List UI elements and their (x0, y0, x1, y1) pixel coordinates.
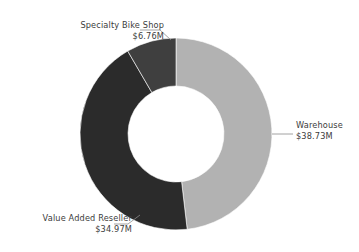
slice-label-name: Value Added Reseller (6, 213, 132, 224)
slice-label-value-added-reseller: Value Added Reseller $34.97M (6, 213, 132, 235)
donut-slices (80, 38, 272, 230)
slice-label-warehouse: Warehouse $38.73M (296, 120, 358, 142)
slice-label-value: $6.76M (42, 31, 164, 42)
slice-label-specialty-bike-shop: Specialty Bike Shop $6.76M (42, 20, 164, 42)
slice-label-value: $34.97M (6, 224, 132, 235)
slice-label-value: $38.73M (296, 131, 358, 142)
donut-slice-warehouse[interactable] (176, 38, 272, 229)
slice-label-name: Specialty Bike Shop (42, 20, 164, 31)
donut-chart: Specialty Bike Shop $6.76M Warehouse $38… (0, 0, 359, 252)
slice-label-name: Warehouse (296, 120, 358, 131)
